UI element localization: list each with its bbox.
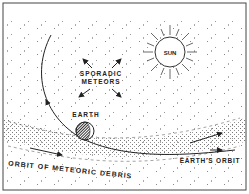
sporadic-label-line2: METEORS	[81, 78, 120, 85]
earth-orbit-label: EARTH'S ORBIT	[180, 157, 241, 164]
diagram-canvas: SUN SPORADIC METEORS EARTH ORBIT OF METE…	[0, 0, 249, 194]
earth-label: EARTH	[72, 111, 99, 118]
sporadic-label-line1: SPORADIC	[80, 70, 122, 77]
earth-icon	[76, 122, 94, 140]
meteor-orbit-diagram: SUN SPORADIC METEORS EARTH ORBIT OF METE…	[0, 0, 249, 194]
sun-label: SUN	[164, 50, 177, 56]
